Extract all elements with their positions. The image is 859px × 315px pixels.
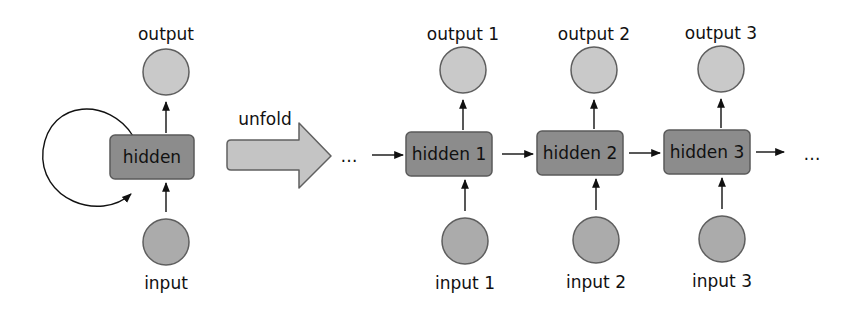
folded-output-label: output: [138, 24, 194, 44]
folded-hidden-label: hidden: [123, 147, 181, 167]
output-2-node: [571, 47, 617, 93]
hidden-2-label: hidden 2: [543, 143, 618, 163]
unfold-arrow-icon: [227, 123, 331, 188]
input-3-node: [699, 216, 745, 262]
output-1-node: [440, 47, 486, 93]
unfold-transition: unfold: [227, 109, 331, 188]
leading-ellipsis: …: [341, 146, 358, 166]
unfolded-rnn: … output 1 hidden 1 input 1 output 2 hid…: [341, 23, 821, 293]
timestep-1: output 1 hidden 1 input 1: [406, 24, 499, 293]
unfold-label: unfold: [238, 109, 291, 129]
hidden-1-label: hidden 1: [412, 144, 487, 164]
folded-output-node: [143, 49, 189, 95]
folded-input-node: [143, 219, 189, 265]
input-3-label: input 3: [692, 271, 752, 291]
output-2-label: output 2: [558, 24, 630, 44]
output-3-node: [698, 46, 744, 92]
output-3-label: output 3: [685, 23, 757, 43]
input-2-label: input 2: [566, 272, 626, 292]
folded-rnn: output hidden input: [43, 24, 195, 293]
input-2-node: [573, 217, 619, 263]
input-1-label: input 1: [435, 273, 495, 293]
trailing-ellipsis: …: [804, 144, 821, 164]
rnn-unfold-diagram: output hidden input unfold … output 1 hi…: [0, 0, 859, 315]
timestep-3: output 3 hidden 3 input 3: [664, 23, 757, 291]
output-1-label: output 1: [427, 24, 499, 44]
hidden-3-label: hidden 3: [670, 142, 745, 162]
folded-input-label: input: [144, 273, 188, 293]
timestep-2: output 2 hidden 2 input 2: [537, 24, 630, 292]
input-1-node: [442, 218, 488, 264]
